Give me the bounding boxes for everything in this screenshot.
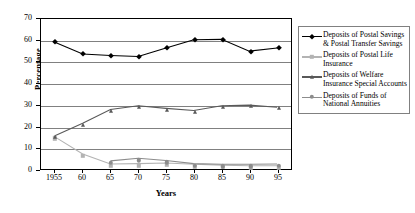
triangle-marker-icon [277,106,281,110]
x-tick-mark [110,170,111,173]
diamond-marker-icon [52,39,58,45]
x-tick-mark [194,170,195,173]
x-tick-mark [166,170,167,173]
y-tick-label: 20 [6,123,32,131]
series-markers [41,19,291,169]
x-tick-label: 95 [260,174,296,182]
y-tick-label: 30 [6,101,32,109]
legend-item[interactable]: Deposits of Funds of National Annuities [302,92,407,109]
diamond-marker-icon [80,51,86,57]
triangle-marker-icon [310,75,314,79]
y-tick-label: 0 [6,166,32,174]
square-marker-icon [137,163,141,167]
legend-item[interactable]: Deposits of Postal Savings & Postal Tran… [302,31,407,48]
triangle-marker-icon [53,135,57,139]
triangle-marker-icon [109,108,113,112]
diamond-marker-icon [164,45,170,51]
square-marker-icon [81,154,85,158]
legend-item[interactable]: Deposits of Welfare Insurance Special Ac… [302,71,407,88]
diamond-marker-icon [108,53,114,59]
y-tick-label: 60 [6,36,32,44]
diamond-marker-icon [220,37,226,43]
legend-label: Deposits of Postal Savings & Postal Tran… [322,31,407,48]
diamond-marker-icon [309,33,315,39]
legend-key [302,32,322,41]
diamond-marker-icon [192,37,198,43]
y-tick-label: 50 [6,57,32,65]
triangle-marker-icon [193,110,197,114]
plot-area [40,18,292,170]
diamond-marker-icon [136,54,142,60]
x-tick-mark [278,170,279,173]
legend-key [302,52,322,61]
triangle-marker-icon [137,105,141,109]
y-tick-label: 70 [6,14,32,22]
triangle-marker-icon [165,107,169,111]
triangle-marker-icon [81,123,85,127]
legend-label: Deposits of Funds of National Annuities [322,92,407,109]
legend-key [302,93,322,102]
triangle-marker-icon [221,105,225,109]
legend-label: Deposits of Postal Life Insurance [322,51,407,68]
legend-label: Deposits of Welfare Insurance Special Ac… [322,71,407,88]
diamond-marker-icon [248,48,254,54]
y-tick-label: 40 [6,79,32,87]
x-axis-title: Years [40,188,292,198]
x-tick-mark [222,170,223,173]
x-tick-mark [82,170,83,173]
y-tick-mark [36,170,40,171]
x-tick-mark [250,170,251,173]
legend-item[interactable]: Deposits of Postal Life Insurance [302,51,407,68]
chart-container: Percentage 010203040506070 1955606570758… [0,0,415,213]
circle-marker-icon [310,95,314,99]
chart-legend: Deposits of Postal Savings & Postal Tran… [298,26,410,114]
circle-marker-icon [137,158,141,162]
triangle-marker-icon [249,104,253,108]
square-marker-icon [310,54,314,58]
legend-key [302,72,322,81]
y-tick-label: 10 [6,144,32,152]
x-tick-mark [138,170,139,173]
x-tick-mark [54,170,55,173]
diamond-marker-icon [276,45,282,51]
